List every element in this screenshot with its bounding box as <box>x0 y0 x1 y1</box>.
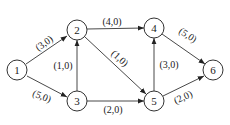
node-6: 6 <box>203 60 223 80</box>
node-label-1: 1 <box>14 64 20 76</box>
edge-label-2-4: (4,0) <box>102 16 121 28</box>
edge-label-4-6: (5,0) <box>176 25 199 46</box>
edge-label-5-6: (2,0) <box>172 88 194 107</box>
node-label-2: 2 <box>74 24 80 36</box>
edge-2-5 <box>85 37 146 94</box>
edge-label-3-2: (1,0) <box>53 60 72 72</box>
node-label-4: 4 <box>151 22 157 34</box>
node-4: 4 <box>144 18 164 38</box>
edge-2-4 <box>87 28 144 29</box>
network-diagram: (3,0) (5,0) (1,0) (4,0) (1,0) (2,0) (3,0… <box>0 0 230 125</box>
edge-label-1-3: (5,0) <box>31 87 53 105</box>
node-label-3: 3 <box>74 95 80 107</box>
node-label-6: 6 <box>210 64 216 76</box>
node-5: 5 <box>144 91 164 111</box>
edge-label-2-5: (1,0) <box>109 47 131 69</box>
edge-label-5-4: (3,0) <box>159 59 178 71</box>
edge-label-1-2: (3,0) <box>33 33 56 54</box>
graph-svg: (3,0) (5,0) (1,0) (4,0) (1,0) (2,0) (3,0… <box>0 0 230 125</box>
edge-label-3-5: (2,0) <box>103 104 122 116</box>
node-2: 2 <box>67 20 87 40</box>
node-3: 3 <box>67 91 87 111</box>
node-1: 1 <box>7 60 27 80</box>
node-label-5: 5 <box>151 95 157 107</box>
